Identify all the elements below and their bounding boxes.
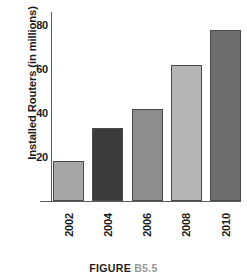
x-label-slot: 2006: [132, 203, 163, 249]
x-label-slot: 2010: [210, 203, 241, 249]
y-axis-tick-label: 60: [22, 63, 48, 75]
x-axis-tick-labels: 20022004200620082010: [53, 203, 241, 249]
figure-caption: FIGUREB5.5: [0, 262, 247, 274]
figure-caption-label: FIGURE: [89, 262, 131, 274]
bar-slot: [210, 12, 241, 201]
x-label-slot: 2002: [53, 203, 84, 249]
bar-series: [53, 12, 241, 201]
bar-slot: [171, 12, 202, 201]
x-axis-tick-label-2006: 2006: [141, 213, 153, 237]
figure-caption-number: B5.5: [134, 262, 158, 274]
bar-2002: [53, 161, 84, 201]
y-axis-tick-label: 80: [22, 19, 48, 31]
figure-b5-5: Installed Routers (in millions) 20406080…: [0, 0, 247, 280]
bar-2010: [210, 30, 241, 201]
bar-2008: [171, 65, 202, 201]
y-axis-tick-label: 20: [22, 151, 48, 163]
x-label-slot: 2004: [92, 203, 123, 249]
y-axis-tick-labels: 20406080: [18, 12, 48, 201]
x-axis-tick-label-2004: 2004: [102, 213, 114, 237]
x-axis-tick-label-2002: 2002: [63, 213, 75, 237]
bar-slot: [132, 12, 163, 201]
bar-2006: [132, 109, 163, 201]
x-axis-tick-label-2010: 2010: [220, 213, 232, 237]
x-axis-tick-label-2008: 2008: [180, 213, 192, 237]
bar-slot: [53, 12, 84, 201]
bar-slot: [92, 12, 123, 201]
bar-2004: [92, 128, 123, 201]
x-label-slot: 2008: [171, 203, 202, 249]
y-axis-tick-label: 40: [22, 107, 48, 119]
